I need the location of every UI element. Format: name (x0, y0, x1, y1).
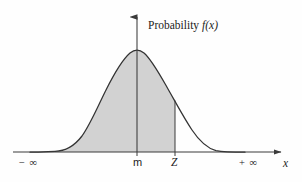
normal-distribution-figure: Probability f(x) − ∞ m Z + ∞ x (0, 0, 302, 182)
tick-label-negative-infinity: − ∞ (19, 158, 38, 169)
tick-label-mean: m (133, 157, 142, 168)
y-axis-title: Probability f(x) (148, 20, 218, 32)
y-axis-title-function: f(x) (202, 19, 218, 31)
shaded-area-under-curve (55, 50, 175, 152)
y-axis-title-text: Probability (148, 19, 202, 31)
tick-label-z: Z (171, 157, 177, 169)
tick-label-positive-infinity: + ∞ (239, 158, 258, 169)
x-axis-label: x (283, 158, 288, 170)
